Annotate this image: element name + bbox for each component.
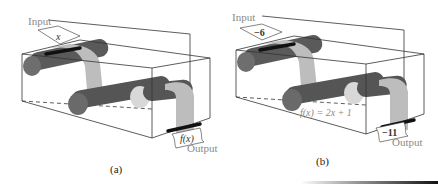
output-label-a: Output: [187, 142, 218, 154]
page-rule: [300, 181, 438, 184]
input-value-a: x: [55, 31, 61, 42]
panel-b: Input −6 f(x) = 2x + 1 −11 Output (b): [232, 11, 424, 168]
function-machine-figure: Input x f(x) Output (a) Input −6 f(x) = …: [0, 0, 438, 184]
function-label-b: f(x) = 2x + 1: [300, 107, 352, 119]
input-value-b: −6: [254, 27, 265, 38]
caption-a: (a): [110, 163, 123, 176]
input-label-a: Input: [28, 15, 51, 27]
panel-a: Input x f(x) Output (a): [22, 15, 218, 176]
input-label-b: Input: [232, 11, 255, 23]
output-label-b: Output: [392, 136, 423, 148]
caption-b: (b): [316, 155, 329, 168]
